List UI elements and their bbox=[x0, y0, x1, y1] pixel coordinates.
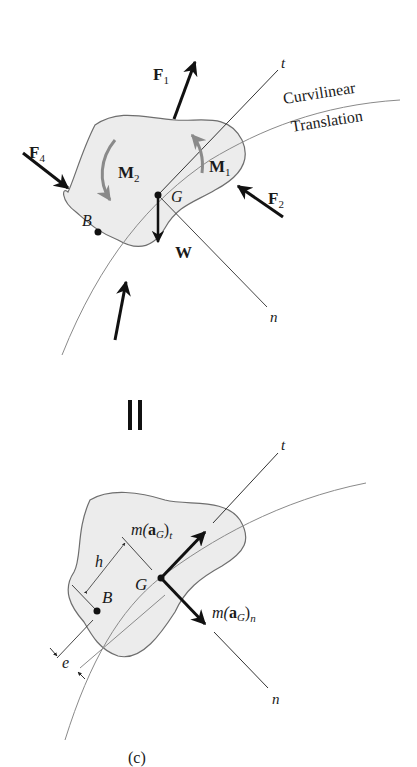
label-t-kinetic: t bbox=[281, 437, 286, 453]
label-b: B bbox=[82, 212, 92, 229]
e-tick-1 bbox=[50, 648, 57, 656]
free-body-diagram: F1 F4 F2 W M2 M1 G B t n Curvilinear Tra… bbox=[23, 55, 400, 355]
label-b-kinetic: B bbox=[102, 588, 113, 607]
point-g-kinetic bbox=[158, 575, 165, 582]
label-f1: F1 bbox=[153, 65, 169, 86]
label-w: W bbox=[175, 243, 192, 262]
label-g: G bbox=[171, 188, 183, 205]
e-extension-b bbox=[57, 620, 93, 658]
label-n-kinetic: n bbox=[272, 691, 280, 707]
label-f2: F2 bbox=[268, 189, 284, 210]
label-h: h bbox=[95, 553, 103, 570]
label-curvilinear: Curvilinear bbox=[282, 79, 357, 107]
t-axis-kinetic bbox=[213, 453, 278, 523]
e-tick-2 bbox=[78, 672, 85, 679]
label-t: t bbox=[281, 55, 286, 71]
label-g-kinetic: G bbox=[135, 575, 147, 594]
label-f4: F4 bbox=[29, 143, 45, 164]
diagram-canvas: F1 F4 F2 W M2 M1 G B t n Curvilinear Tra… bbox=[0, 0, 417, 767]
point-g bbox=[155, 192, 162, 199]
equals-sign bbox=[128, 400, 142, 430]
point-b-kinetic bbox=[94, 608, 101, 615]
label-n: n bbox=[270, 309, 278, 325]
point-b bbox=[95, 229, 102, 236]
force-arrow-bottom bbox=[115, 282, 126, 340]
n-axis-kinetic bbox=[214, 632, 268, 688]
kinetic-diagram: G B h e t n m(aG)t m(aG)n bbox=[50, 437, 366, 740]
label-mag-n: m(aG)n bbox=[212, 604, 256, 624]
force-arrow-f1 bbox=[174, 62, 195, 119]
label-e: e bbox=[62, 654, 69, 671]
figure-caption: (c) bbox=[128, 749, 146, 767]
